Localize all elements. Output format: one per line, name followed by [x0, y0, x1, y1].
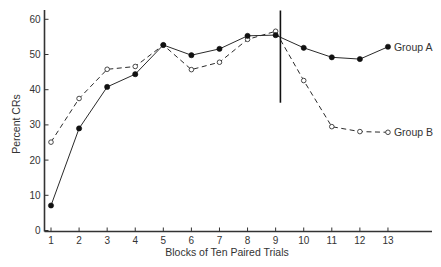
y-tick-label: 50: [29, 49, 41, 60]
x-tick-label: 6: [189, 235, 195, 246]
x-tick-label: 4: [132, 235, 138, 246]
y-tick-label: 30: [29, 119, 41, 130]
filled-circle-marker: [273, 33, 278, 38]
x-tick-label: 3: [104, 235, 110, 246]
series-label: Group B: [394, 126, 433, 138]
filled-circle-marker: [301, 45, 306, 50]
filled-circle-marker: [133, 72, 138, 77]
open-circle-marker: [105, 67, 110, 72]
line-chart: 010203040506012345678910111213 Group BGr…: [0, 0, 441, 267]
series-label: Group A: [394, 41, 433, 53]
open-circle-marker: [386, 130, 391, 135]
x-tick-label: 5: [161, 235, 167, 246]
filled-circle-marker: [76, 126, 81, 131]
y-tick-label: 60: [29, 14, 41, 25]
filled-circle-marker: [245, 33, 250, 38]
filled-circle-marker: [329, 55, 334, 60]
filled-circle-marker: [385, 44, 390, 49]
open-circle-marker: [189, 67, 194, 72]
x-tick-label: 11: [327, 235, 338, 246]
x-axis-label: Blocks of Ten Paired Trials: [165, 246, 289, 258]
y-axis-label: Percent CRs: [10, 94, 22, 154]
open-circle-marker: [358, 129, 363, 134]
open-circle-marker: [77, 96, 82, 101]
x-tick-label: 8: [245, 235, 251, 246]
open-circle-marker: [301, 78, 306, 83]
y-tick-label: 40: [29, 84, 41, 95]
open-circle-marker: [49, 140, 54, 145]
x-tick-label: 7: [217, 235, 223, 246]
axes: 010203040506012345678910111213: [29, 10, 432, 246]
x-tick-label: 12: [354, 235, 366, 246]
filled-circle-marker: [161, 42, 166, 47]
series-group-a: Group A: [48, 33, 432, 209]
filled-circle-marker: [48, 203, 53, 208]
open-circle-marker: [217, 60, 222, 65]
filled-circle-marker: [217, 46, 222, 51]
chart-canvas: 010203040506012345678910111213 Group BGr…: [0, 0, 441, 267]
filled-circle-marker: [357, 56, 362, 61]
x-tick-label: 2: [76, 235, 82, 246]
open-circle-marker: [330, 124, 335, 129]
y-tick-label: 0: [35, 225, 41, 236]
series-layer: Group BGroup A: [48, 29, 433, 208]
x-tick-label: 13: [382, 235, 394, 246]
filled-circle-marker: [105, 84, 110, 89]
y-tick-label: 10: [29, 190, 41, 201]
x-tick-label: 1: [48, 235, 54, 246]
y-tick-label: 20: [29, 155, 41, 166]
x-tick-label: 10: [298, 235, 310, 246]
x-tick-label: 9: [273, 235, 279, 246]
filled-circle-marker: [189, 53, 194, 58]
open-circle-marker: [133, 64, 138, 69]
